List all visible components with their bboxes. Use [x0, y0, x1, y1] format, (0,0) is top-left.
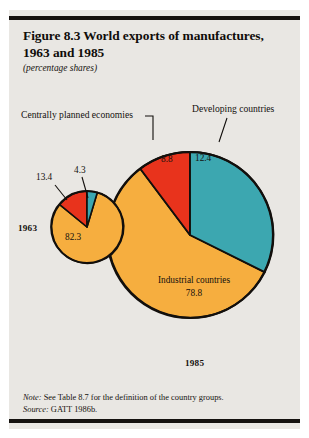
leader-line-developing: [219, 118, 227, 142]
leader-line-centrally-planned: [145, 116, 153, 140]
note-text: See Table 8.7 for the definition of the …: [42, 393, 224, 402]
label-industrial-countries: Industrial countries 78.8: [134, 274, 254, 299]
callout-centrally-planned-economies: Centrally planned economies: [21, 109, 133, 120]
note-key: Note:: [23, 393, 42, 402]
value-1963-industrial: 82.3: [65, 232, 81, 242]
value-1963-centrally-planned: 13.4: [36, 172, 52, 182]
pie-1963: [51, 191, 124, 263]
pie-chart-area: Centrally planned economies Developing c…: [9, 10, 300, 429]
label-industrial-countries-text: Industrial countries: [134, 274, 254, 287]
year-label-1963: 1963: [18, 223, 37, 233]
source-key: Source:: [23, 405, 49, 414]
figure-footer: Note: See Table 8.7 for the definition o…: [23, 392, 289, 416]
figure-note: Note: See Table 8.7 for the definition o…: [23, 392, 289, 404]
leader-line-1963-centrally-planned: [55, 185, 67, 200]
callout-developing-countries: Developing countries: [192, 103, 274, 114]
value-1985-centrally-planned: 8.8: [161, 154, 173, 164]
figure-source: Source: GATT 1986b.: [23, 404, 289, 416]
source-text: GATT 1986b.: [49, 405, 97, 414]
figure-panel: Figure 8.3 World exports of manufactures…: [9, 10, 300, 429]
year-label-1985: 1985: [185, 358, 204, 368]
value-1985-developing: 12.4: [195, 153, 211, 163]
value-1985-industrial: 78.8: [134, 287, 254, 300]
pie-chart-graphic: [9, 10, 300, 429]
value-1963-developing: 4.3: [74, 165, 86, 175]
